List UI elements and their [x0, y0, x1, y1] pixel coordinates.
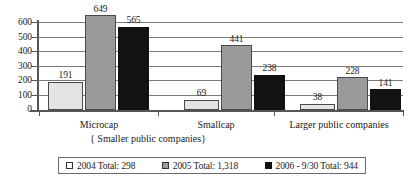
legend-label-2005: 2005 Total: 1,318 — [173, 161, 238, 171]
x-axis-label-larger-public-companies: Larger public companies — [276, 119, 402, 130]
legend-swatch-2006-icon — [265, 162, 272, 169]
x-axis-label-smallcap: Smallcap — [160, 119, 272, 130]
x-axis-tick-end — [403, 110, 404, 116]
bar-chart: 600 500 400 300 200 100 0 191 — [0, 0, 416, 181]
chart-legend: 2004 Total: 298 2005 Total: 1,318 2006 -… — [58, 157, 366, 174]
bar-microcap-2006 — [118, 27, 149, 110]
y-tick-label-500: 500 — [6, 33, 32, 43]
bar-smallcap-2006 — [254, 75, 285, 110]
brace-annotation-smaller-public-companies: { Smaller public companies} — [48, 133, 248, 144]
y-tick-label-600: 600 — [6, 18, 32, 28]
data-label-smallcap-2006: 238 — [254, 63, 285, 73]
data-label-larger-2004: 38 — [300, 92, 335, 102]
legend-label-2004: 2004 Total: 298 — [77, 161, 135, 171]
bar-smallcap-2004 — [184, 100, 219, 110]
bar-larger-2005 — [337, 77, 368, 110]
legend-item-2005: 2005 Total: 1,318 — [162, 161, 238, 171]
x-axis-tick-sep-2 — [274, 110, 275, 116]
bar-larger-2004 — [300, 104, 335, 110]
bar-larger-2006 — [370, 89, 401, 110]
data-label-microcap-2004: 191 — [48, 70, 83, 80]
legend-item-2004: 2004 Total: 298 — [66, 161, 135, 171]
bar-microcap-2005 — [85, 15, 116, 110]
bar-microcap-2004 — [48, 82, 83, 110]
bar-smallcap-2005 — [221, 45, 252, 110]
data-label-microcap-2005: 649 — [85, 4, 116, 14]
data-label-microcap-2006: 565 — [118, 15, 149, 25]
data-label-smallcap-2004: 69 — [184, 88, 219, 98]
data-label-smallcap-2005: 441 — [221, 34, 252, 44]
y-tick-label-300: 300 — [6, 62, 32, 72]
y-tick-label-100: 100 — [6, 91, 32, 101]
legend-swatch-2004-icon — [66, 162, 73, 169]
data-label-larger-2005: 228 — [337, 66, 368, 76]
legend-swatch-2005-icon — [162, 162, 169, 169]
x-axis-tick-sep-1 — [158, 110, 159, 116]
x-axis-tick-start — [39, 110, 40, 116]
legend-label-2006: 2006 - 9/30 Total: 944 — [276, 161, 358, 171]
y-tick-label-400: 400 — [6, 47, 32, 57]
y-tick-label-0: 0 — [6, 105, 32, 115]
y-tick-label-200: 200 — [6, 76, 32, 86]
x-axis-line — [30, 110, 404, 112]
legend-item-2006: 2006 - 9/30 Total: 944 — [265, 161, 358, 171]
x-axis-label-microcap: Microcap — [44, 119, 154, 130]
data-label-larger-2006: 141 — [370, 78, 401, 88]
